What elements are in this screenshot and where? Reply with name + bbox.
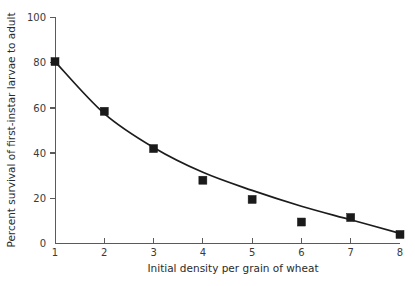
data-point-marker <box>248 195 256 203</box>
y-tick-label-20: 20 <box>33 193 46 204</box>
x-tick-label-1: 1 <box>52 247 58 258</box>
x-tick-label-8: 8 <box>397 247 403 258</box>
y-tick-label-100: 100 <box>27 12 46 23</box>
y-tick-label-60: 60 <box>33 103 46 114</box>
survival-vs-density-chart: 100 80 60 40 20 0 1 2 3 4 5 6 7 8 Initia… <box>0 0 415 286</box>
x-axis-title: Initial density per grain of wheat <box>147 262 318 274</box>
y-tick-label-0: 0 <box>40 238 46 249</box>
data-point-marker <box>396 230 404 238</box>
y-tick-label-40: 40 <box>33 148 46 159</box>
y-axis-title: Percent survival of first-instar larvae … <box>5 12 17 247</box>
data-point-marker <box>51 58 59 66</box>
x-tick-label-2: 2 <box>101 247 107 258</box>
x-tick-label-3: 3 <box>150 247 156 258</box>
data-point-marker <box>100 107 108 115</box>
chart-container: 100 80 60 40 20 0 1 2 3 4 5 6 7 8 Initia… <box>0 0 415 286</box>
data-point-marker <box>297 218 305 226</box>
y-tick-label-80: 80 <box>33 57 46 68</box>
x-tick-label-6: 6 <box>298 247 304 258</box>
data-point-marker <box>199 176 207 184</box>
data-point-marker <box>347 214 355 222</box>
x-tick-label-4: 4 <box>200 247 206 258</box>
x-tick-label-5: 5 <box>249 247 255 258</box>
x-tick-label-7: 7 <box>348 247 354 258</box>
data-point-marker <box>150 145 158 153</box>
